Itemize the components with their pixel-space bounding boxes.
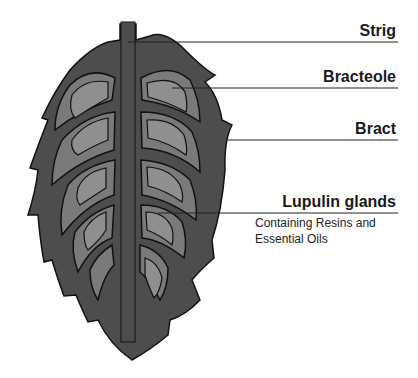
lupulin-description-line-2: Essential Oils: [255, 231, 415, 247]
strig-stem: [121, 22, 135, 342]
label-strig: Strig: [360, 22, 396, 40]
hop-cone-diagram: [0, 0, 418, 378]
label-lupulin-glands: Lupulin glands: [282, 193, 396, 211]
lupulin-description-line-1: Containing Resins and: [255, 215, 415, 231]
label-bracteole: Bracteole: [323, 68, 396, 86]
label-bract: Bract: [355, 120, 396, 138]
lupulin-description: Containing Resins and Essential Oils: [255, 215, 415, 247]
